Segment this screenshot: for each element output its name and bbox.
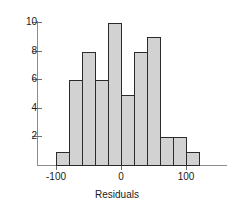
y-tick-label: 10: [9, 17, 37, 27]
y-tick-label: 8: [9, 46, 37, 56]
histogram-bar: [121, 95, 135, 167]
x-axis-title: Residuals: [0, 190, 234, 200]
x-tick-label: 100: [166, 172, 206, 182]
histogram-bar: [82, 52, 96, 166]
histogram-bar: [160, 137, 174, 166]
y-tick-label: 2: [9, 131, 37, 141]
y-axis-line: [37, 21, 38, 166]
histogram-bar: [186, 152, 200, 166]
plot-area: 246810 -1000100: [0, 0, 234, 212]
y-tick-label: 6: [9, 74, 37, 84]
histogram-figure: 246810 -1000100 Residuals: [0, 0, 234, 212]
y-tick-label: 4: [9, 103, 37, 113]
x-tick-label: 0: [101, 172, 141, 182]
histogram-bar: [108, 23, 122, 166]
histogram-bar: [134, 52, 148, 166]
histogram-bar: [147, 37, 161, 166]
histogram-bar: [173, 137, 187, 166]
histogram-bar: [69, 80, 83, 166]
histogram-bar: [56, 152, 70, 166]
histogram-bar: [95, 80, 109, 166]
x-tick-label: -100: [36, 172, 76, 182]
